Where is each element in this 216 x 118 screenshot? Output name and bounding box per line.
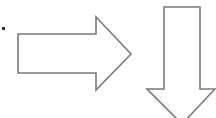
bullet-marker [2, 27, 5, 30]
right-arrow-icon [18, 17, 131, 90]
diagram-canvas [0, 0, 216, 118]
down-arrow-icon [147, 7, 215, 118]
